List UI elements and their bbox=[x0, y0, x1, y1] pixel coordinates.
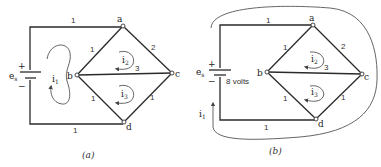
loop-current-i1-label: i1 bbox=[199, 109, 206, 120]
resistance-label: 2 bbox=[151, 43, 156, 52]
node-label-b: b bbox=[257, 68, 263, 78]
resistance-label: 1 bbox=[150, 93, 155, 102]
wire-top-b bbox=[220, 25, 311, 68]
wire-bottom-a bbox=[30, 80, 123, 124]
branch-bd-a bbox=[77, 75, 124, 122]
node-label-a: a bbox=[309, 13, 315, 23]
branch-bd-b bbox=[267, 72, 316, 119]
resistance-label: 3 bbox=[135, 64, 140, 73]
resistance-label: 2 bbox=[341, 42, 346, 51]
branch-ab-b bbox=[267, 25, 313, 72]
node-label-b: b bbox=[67, 71, 73, 81]
battery-plus-sign: + bbox=[208, 59, 216, 69]
loop-current-i1-label: i1 bbox=[52, 74, 59, 85]
branch-cd-a bbox=[124, 73, 172, 122]
resistance-label: 1 bbox=[266, 16, 271, 25]
loop-current-i2-label: i2 bbox=[311, 54, 318, 65]
branch-bc-b bbox=[267, 72, 362, 74]
loop-current-i3-label: i3 bbox=[311, 87, 318, 98]
circuit-figure: a b c d 1 1 2 3 1 1 1 + − es i1 i2 i3 (a… bbox=[0, 0, 381, 167]
branch-bc-a bbox=[77, 73, 172, 75]
branch-ab-a bbox=[77, 26, 123, 75]
resistance-label: 1 bbox=[341, 93, 346, 102]
node-a-b bbox=[311, 23, 315, 27]
resistance-label: 1 bbox=[71, 16, 76, 25]
node-b-b bbox=[265, 70, 269, 74]
node-a-a bbox=[121, 24, 125, 28]
source-voltage-label: 8 volts bbox=[226, 77, 249, 86]
source-label: es bbox=[9, 71, 17, 82]
node-label-d: d bbox=[318, 119, 324, 129]
loop-current-i1-arrow bbox=[47, 45, 70, 104]
circuit-b: a b c d 1 1 2 3 1 1 1 + − es 8 volts i1 … bbox=[196, 6, 377, 156]
figure-caption-b: (b) bbox=[269, 146, 282, 156]
source-label: es bbox=[196, 67, 204, 78]
battery-minus-sign: − bbox=[208, 76, 216, 86]
resistance-label: 1 bbox=[283, 43, 288, 52]
node-label-c: c bbox=[175, 69, 180, 79]
circuit-a: a b c d 1 1 2 3 1 1 1 + − es i1 i2 i3 (a… bbox=[9, 14, 180, 160]
resistance-label: 1 bbox=[264, 123, 269, 132]
battery-plus-sign: + bbox=[18, 61, 26, 71]
resistance-label: 3 bbox=[324, 63, 329, 72]
branch-ac-a bbox=[123, 26, 172, 73]
resistance-label: 1 bbox=[91, 94, 96, 103]
resistance-label: 1 bbox=[283, 94, 288, 103]
resistance-label: 1 bbox=[90, 45, 95, 54]
battery-minus-sign: − bbox=[18, 81, 26, 91]
loop-current-i2-label: i2 bbox=[122, 55, 129, 66]
node-c-a bbox=[170, 71, 174, 75]
figure-caption-a: (a) bbox=[82, 150, 95, 160]
node-b-a bbox=[75, 73, 79, 77]
node-label-d: d bbox=[126, 122, 132, 132]
node-label-a: a bbox=[117, 14, 123, 24]
loop-current-i3-label: i3 bbox=[121, 89, 128, 100]
node-label-c: c bbox=[364, 72, 369, 82]
wire-top-a bbox=[30, 27, 122, 70]
resistance-label: 1 bbox=[73, 126, 78, 135]
